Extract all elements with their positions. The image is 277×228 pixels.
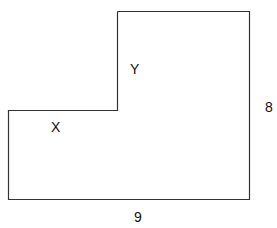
label-x: X — [51, 119, 61, 135]
l-shape-diagram: Y X 8 9 — [0, 0, 277, 228]
label-right-side: 8 — [265, 99, 273, 115]
label-y: Y — [130, 61, 140, 77]
label-bottom-side: 9 — [134, 209, 142, 225]
l-shape-outline — [9, 12, 250, 200]
